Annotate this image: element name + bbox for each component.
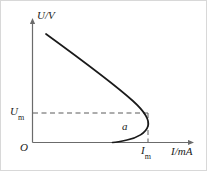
um-subscript: m — [18, 113, 24, 122]
origin-label: O — [20, 142, 28, 153]
x-axis-label-text: I/mA — [171, 145, 192, 157]
im-tick-label: Im — [141, 145, 151, 159]
figure-container: U/V I/mA O Um Im a — [0, 0, 207, 171]
point-a-label: a — [122, 121, 128, 132]
origin-label-text: O — [20, 141, 28, 153]
point-a-text: a — [122, 120, 128, 132]
x-axis-label: I/mA — [171, 146, 192, 157]
y-axis-label-text: U/V — [37, 9, 55, 21]
y-axis-label: U/V — [37, 10, 55, 21]
im-subscript: m — [145, 152, 151, 161]
ui-characteristic-curve — [46, 34, 148, 143]
um-tick-label: Um — [10, 106, 24, 120]
um-symbol: U — [10, 105, 18, 117]
